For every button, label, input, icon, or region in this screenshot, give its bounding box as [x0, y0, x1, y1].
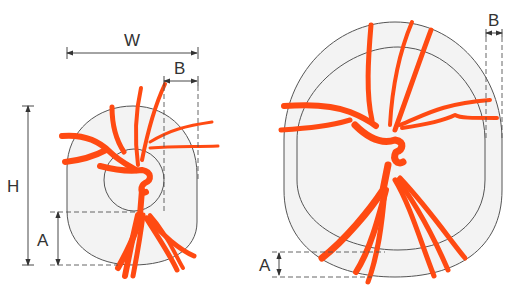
label-a-left: A — [37, 231, 49, 250]
label-b-right: B — [488, 11, 499, 30]
label-b-left: B — [174, 59, 185, 78]
optic-disc-diagram: W B H A — [0, 0, 510, 296]
left-disc: W B H A — [7, 31, 218, 276]
label-w: W — [124, 31, 140, 50]
label-h: H — [7, 177, 19, 196]
right-disc: B A — [259, 11, 502, 282]
label-a-right: A — [259, 256, 271, 275]
